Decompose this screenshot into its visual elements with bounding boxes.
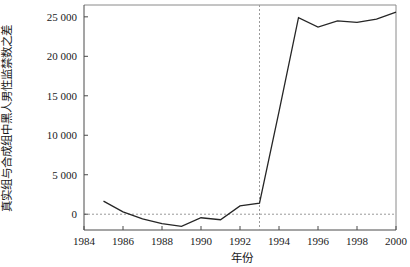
x-tick-label: 1992 [229,235,251,247]
x-tick-label: 2000 [385,235,408,247]
y-tick-label: 25 000 [47,11,78,23]
series-line [104,12,397,226]
chart-figure: 05 00010 00015 00020 00025 000 198419861… [0,0,410,267]
x-tick-label: 1988 [151,235,174,247]
y-axis-tick-labels: 05 00010 00015 00020 00025 000 [47,11,78,220]
x-tick-label: 1994 [268,235,291,247]
x-axis-tick-labels: 198419861988199019921994199619982000 [73,235,408,247]
y-tick-label: 15 000 [47,90,78,102]
plot-frame [84,5,396,230]
y-tick-label: 20 000 [47,50,78,62]
y-tick-label: 0 [72,208,78,220]
y-axis-title: 真实组与合成组中黑人男性监禁数之差 [0,25,13,212]
y-tick-label: 10 000 [47,129,78,141]
x-tick-label: 1998 [346,235,369,247]
data-series [104,12,397,226]
y-axis-ticks [84,17,88,214]
x-tick-label: 1996 [307,235,330,247]
line-chart: 05 00010 00015 00020 00025 000 198419861… [0,0,410,267]
x-tick-label: 1990 [190,235,213,247]
x-axis-title: 年份 [231,251,254,264]
x-tick-label: 1986 [112,235,135,247]
y-tick-label: 5 000 [52,169,77,181]
x-axis-ticks [84,226,396,230]
x-tick-label: 1984 [73,235,96,247]
